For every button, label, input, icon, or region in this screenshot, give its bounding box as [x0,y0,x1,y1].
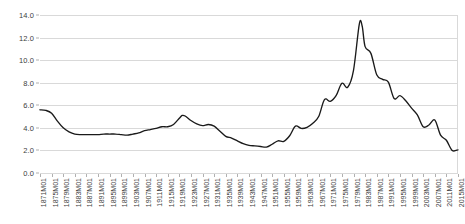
y-axis: 0.02.04.06.08.010.012.014.0 [0,0,40,190]
x-tick-label: 1923M01 [191,178,198,207]
series-line [40,21,458,152]
x-tick-label: 1935M01 [226,178,233,207]
x-tick-mark [365,174,366,177]
x-tick-mark [342,174,343,177]
x-tick-mark [226,174,227,177]
y-tick-label: 14.0 [19,11,34,20]
x-tick-label: 1975M01 [342,178,349,207]
x-tick-label: 1983M01 [365,178,372,207]
x-tick-label: 1967M01 [319,178,326,207]
y-tick-mark [36,150,39,151]
y-tick-label: 8.0 [23,78,34,87]
x-tick-label: 1883M01 [75,178,82,207]
x-tick-label: 1903M01 [133,178,140,207]
series-layer [40,15,458,173]
y-tick-label: 4.0 [23,123,34,132]
x-tick-label: 1951M01 [272,178,279,207]
x-tick-mark [110,174,111,177]
x-tick-mark [330,174,331,177]
x-tick-mark [52,174,53,177]
y-tick-label: 6.0 [23,101,34,110]
x-tick-mark [435,174,436,177]
x-tick-mark [284,174,285,177]
x-tick-label: 1979M01 [354,178,361,207]
x-tick-label: 1899M01 [121,178,128,207]
x-tick-label: 1907M01 [145,178,152,207]
x-tick-label: 2003M01 [423,178,430,207]
x-tick-mark [388,174,389,177]
y-tick-mark [36,82,39,83]
y-tick-mark [36,127,39,128]
x-tick-label: 1915M01 [168,178,175,207]
y-tick-label: 0.0 [23,169,34,178]
x-tick-mark [214,174,215,177]
plot-area [40,15,458,173]
x-tick-mark [272,174,273,177]
x-tick-mark [156,174,157,177]
x-tick-label: 1875M01 [52,178,59,207]
x-tick-mark [377,174,378,177]
x-tick-label: 1871M01 [40,178,47,207]
y-tick-mark [36,37,39,38]
x-tick-label: 1955M01 [284,178,291,207]
y-tick-label: 2.0 [23,146,34,155]
x-tick-label: 1991M01 [388,178,395,207]
x-tick-label: 1999M01 [412,178,419,207]
x-tick-mark [458,174,459,177]
x-tick-label: 1927M01 [203,178,210,207]
y-tick-label: 12.0 [19,33,34,42]
y-tick-label: 10.0 [19,56,34,65]
x-tick-mark [40,174,41,177]
x-tick-mark [261,174,262,177]
x-tick-label: 1939M01 [237,178,244,207]
x-axis: 1871M011875M011879M011883M011887M011891M… [40,174,458,224]
x-tick-label: 2011M01 [446,178,453,207]
x-tick-mark [446,174,447,177]
x-tick-label: 1943M01 [249,178,256,207]
x-tick-mark [145,174,146,177]
x-tick-mark [307,174,308,177]
x-tick-label: 2007M01 [435,178,442,207]
x-tick-label: 1959M01 [295,178,302,207]
x-tick-mark [237,174,238,177]
x-tick-mark [179,174,180,177]
x-tick-mark [133,174,134,177]
y-tick-mark [36,60,39,61]
x-tick-mark [203,174,204,177]
x-tick-label: 1887M01 [86,178,93,207]
x-tick-mark [319,174,320,177]
x-tick-label: 1891M01 [98,178,105,207]
x-tick-label: 1995M01 [400,178,407,207]
x-tick-mark [86,174,87,177]
y-tick-mark [36,105,39,106]
x-tick-mark [249,174,250,177]
x-tick-label: 1987M01 [377,178,384,207]
x-tick-label: 1971M01 [330,178,337,207]
x-tick-mark [75,174,76,177]
y-tick-mark [36,173,39,174]
x-tick-label: 1919M01 [179,178,186,207]
x-tick-label: 1879M01 [63,178,70,207]
x-tick-mark [295,174,296,177]
x-tick-label: 1963M01 [307,178,314,207]
x-tick-mark [98,174,99,177]
x-tick-label: 1947M01 [261,178,268,207]
x-tick-label: 2015M01 [458,178,465,207]
x-tick-mark [354,174,355,177]
x-tick-mark [191,174,192,177]
x-tick-label: 1911M01 [156,178,163,207]
x-tick-mark [63,174,64,177]
x-tick-mark [400,174,401,177]
x-tick-mark [121,174,122,177]
x-tick-label: 1895M01 [110,178,117,207]
x-tick-mark [168,174,169,177]
x-tick-mark [412,174,413,177]
y-tick-mark [36,15,39,16]
x-tick-mark [423,174,424,177]
x-tick-label: 1931M01 [214,178,221,207]
